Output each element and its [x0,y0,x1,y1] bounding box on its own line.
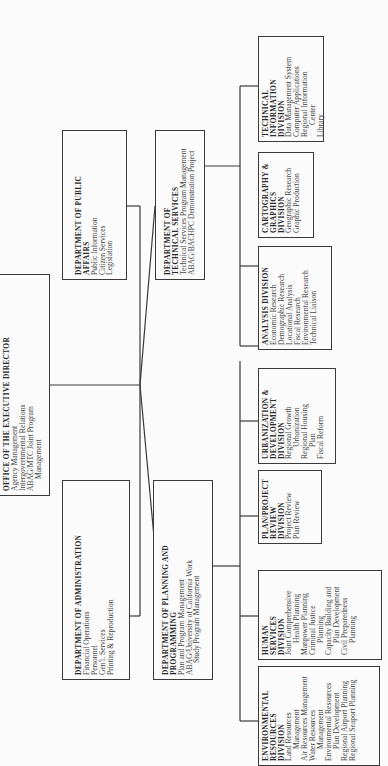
division-item: Criminal Justice [309,575,317,655]
division-title: HUMAN SERVICES DIVISION [262,585,285,655]
division-title: TECHNICAL INFORMATION DIVISION [262,67,285,137]
division-item: Library [317,41,325,137]
division-technical-information-box: TECHNICAL INFORMATION DIVISION Data Mana… [258,36,324,142]
department-item: Study Program Management [193,485,201,675]
division-item: Regional Seaport Planning [349,671,357,761]
division-environmental-box: ENVIRONMENTAL RESOURCES DIVISION Land Re… [258,666,380,766]
org-chart: OFFICE OF THE EXECUTIVE DIRECTOR Agency … [0,0,388,766]
exec-item: Management [35,279,43,491]
division-title: CARTOGRAPHY & GRAPHICS DIVISION [262,163,285,233]
division-item: Graphic Production [293,157,301,233]
department-item: Printing & Reproduction [107,485,115,675]
division-urbanization-box: URBANIZATION & DEVELOPMENT DIVISION Regi… [258,368,336,464]
division-item: Planning [349,575,357,655]
executive-director-box: OFFICE OF THE EXECUTIVE DIRECTOR Agency … [0,274,50,496]
department-technical-services-box: DEPARTMENT OF TECHNICAL SERVICES Technic… [155,130,205,280]
department-administration-box: DEPARTMENT OF ADMINISTRATION Financial O… [62,480,130,680]
division-item: Fiscal Reform [317,373,325,459]
division-plan-project-review-box: PLAN/PROJECT REVIEW DIVISION Project Rev… [258,470,322,544]
department-planning-box: DEPARTMENT OF PLANNING AND PROGRAMMING P… [153,480,213,680]
department-item: Legislation [106,135,114,275]
division-title: URBANIZATION & DEVELOPMENT DIVISION [262,379,285,459]
department-title: DEPARTMENT OF TECHNICAL SERVICES [164,165,180,275]
department-title: DEPARTMENT OF PLANNING AND PROGRAMMING [162,525,178,675]
division-title: ENVIRONMENTAL RESOURCES DIVISION [262,701,285,761]
division-item: Civil Preparedness [341,575,349,655]
division-human-services-box: HUMAN SERVICES DIVISION Joint Comprehens… [258,570,382,660]
division-cartography-box: CARTOGRAPHY & GRAPHICS DIVISION Geograph… [258,152,314,238]
division-title: PLAN/PROJECT REVIEW DIVISION [262,479,285,539]
division-item: Technical Liaison [310,251,318,345]
division-analysis-box: ANALYSIS DIVISION Economic Research Demo… [258,246,332,350]
department-title: DEPARTMENT OF PUBLIC AFFAIRS [75,155,91,275]
division-item: Plan Review [293,475,301,539]
department-item: ABAG/BACHPC Demonstration Project [188,135,196,275]
department-public-affairs-box: DEPARTMENT OF PUBLIC AFFAIRS Public Info… [62,130,127,280]
